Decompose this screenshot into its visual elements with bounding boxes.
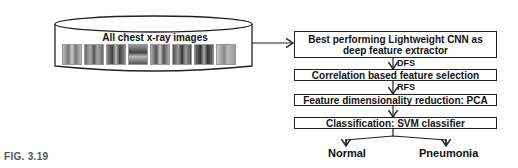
xray-thumbnail (150, 44, 170, 65)
output-normal: Normal (328, 147, 366, 159)
xray-thumbnail (128, 44, 148, 65)
edge-label-rfs: RFS (397, 82, 415, 92)
xray-thumbnail (216, 44, 236, 65)
output-pneumonia: Pneumonia (419, 147, 478, 159)
xray-thumbnail (84, 44, 104, 65)
step-label: deep feature extractor (343, 45, 448, 56)
xray-thumbnail (194, 44, 214, 65)
connector-arrows (0, 0, 518, 168)
edge-label-dfs: DFS (397, 58, 415, 68)
step-pca-reduction: Feature dimensionality reduction: PCA (294, 94, 497, 106)
xray-thumbnail (106, 44, 126, 65)
step-label: Classification: SVM classifier (326, 118, 465, 129)
step-label: Correlation based feature selection (312, 70, 479, 81)
step-label: Best performing Lightweight CNN as (308, 34, 482, 45)
step-cnn-feature-extractor: Best performing Lightweight CNN as deep … (294, 31, 497, 58)
figure-caption: FIG. 3.19 (4, 151, 48, 162)
step-svm-classifier: Classification: SVM classifier (294, 117, 497, 129)
step-correlation-feature-selection: Correlation based feature selection (294, 69, 497, 81)
xray-thumbnail (172, 44, 192, 65)
step-label: Feature dimensionality reduction: PCA (303, 95, 487, 106)
database-label: All chest x-ray images (100, 32, 210, 43)
xray-thumbnail (62, 44, 82, 65)
xray-thumbnails (62, 44, 236, 65)
